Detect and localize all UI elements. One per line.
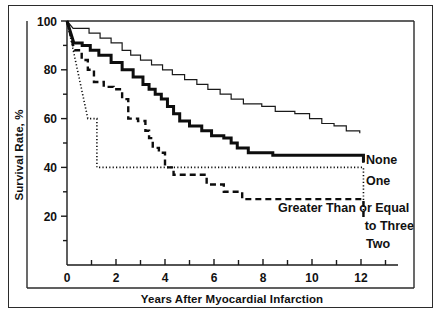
x-axis-title: Years After Myocardial Infarction [141,293,323,305]
x-tick-label-2: 2 [113,271,120,285]
y-tick-label-20: 20 [44,210,58,224]
series-path-none [67,21,360,133]
x-tick-label-6: 6 [211,271,218,285]
series-path-two [67,21,363,221]
y-tick-label-80: 80 [44,63,58,77]
x-tick-label-12: 12 [354,271,368,285]
y-tick-label-40: 40 [44,161,58,175]
series-label-one: One [366,174,390,188]
y-tick-label-100: 100 [37,15,57,29]
y-axis-title: Survival Rate, % [13,109,25,200]
survival-curve-chart: 100 80 60 40 20 0 2 4 6 8 10 12 Survival… [0,0,445,318]
series-layer [67,21,363,221]
y-axis-ticks [61,21,67,241]
y-tick-labels: 100 80 60 40 20 [37,15,57,224]
series-label-greater-than-or-equal-line2: to Three [365,219,414,233]
x-tick-label-4: 4 [162,271,169,285]
x-tick-label-8: 8 [260,271,267,285]
series-labels: None One Greater Than or Equal to Three … [278,153,414,251]
series-label-two: Two [366,237,390,251]
x-tick-label-10: 10 [305,271,319,285]
y-tick-label-60: 60 [44,112,58,126]
x-tick-label-0: 0 [64,271,71,285]
series-label-none: None [366,153,397,167]
series-label-greater-than-or-equal-line1: Greater Than or Equal [278,201,409,215]
x-axis-ticks [92,259,386,265]
x-tick-labels: 0 2 4 6 8 10 12 [64,271,368,285]
kaplan-meier-survival-figure: 100 80 60 40 20 0 2 4 6 8 10 12 Survival… [0,0,445,318]
